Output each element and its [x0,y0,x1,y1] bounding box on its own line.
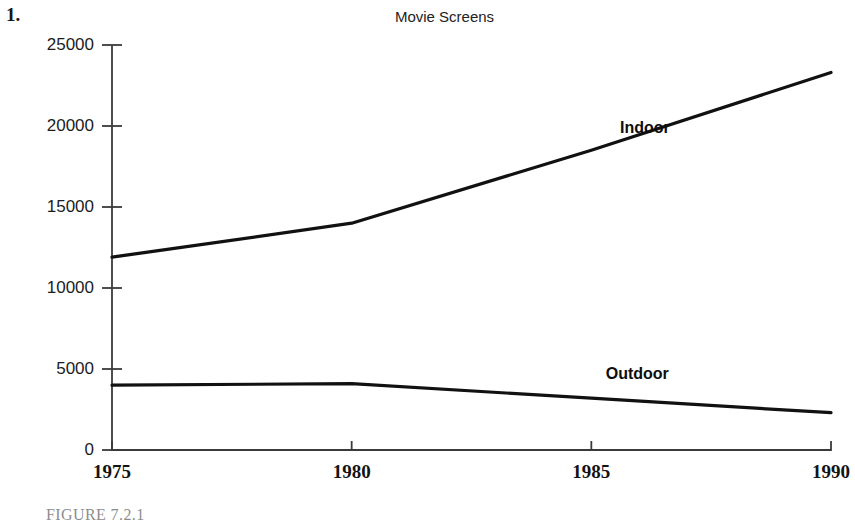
series-line-outdoor [112,384,831,413]
figure-caption: FIGURE 7.2.1 [46,506,145,524]
series-label-indoor: Indoor [620,119,670,137]
y-axis-tick-label: 10000 [8,278,94,298]
y-axis-tick-label: 20000 [8,116,94,136]
y-axis-tick-label: 15000 [8,197,94,217]
x-axis-tick-label: 1980 [333,461,371,483]
line-chart-plot [0,0,855,525]
series-label-outdoor: Outdoor [606,365,669,383]
figure-page: 1. Movie Screens 05000100001500020000250… [0,0,855,525]
y-axis-tick-label: 0 [8,440,94,460]
x-axis-tick-label: 1990 [812,461,850,483]
series-line-indoor [112,73,831,258]
y-axis-tick-label: 25000 [8,35,94,55]
x-axis-tick-label: 1985 [572,461,610,483]
x-axis-tick-label: 1975 [93,461,131,483]
y-axis-tick-label: 5000 [8,359,94,379]
chart-series-lines [112,73,831,413]
